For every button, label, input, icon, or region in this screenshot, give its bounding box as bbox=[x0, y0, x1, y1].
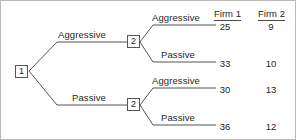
branch-label-n2b-passive: Passive bbox=[161, 113, 195, 123]
edge-n2b-aggressive bbox=[140, 88, 216, 105]
decision-node-2-lower: 2 bbox=[127, 98, 140, 111]
edge-root-aggressive bbox=[29, 42, 127, 71]
tree-edges bbox=[1, 1, 296, 140]
branch-label-root-passive: Passive bbox=[72, 93, 106, 103]
payoff-firm1-row1: 25 bbox=[212, 22, 238, 32]
payoff-firm2-row3: 13 bbox=[258, 85, 284, 95]
payoff-firm1-row2: 33 bbox=[212, 59, 238, 69]
column-header-firm-1: Firm 1 bbox=[214, 9, 241, 21]
decision-node-1: 1 bbox=[15, 65, 28, 78]
payoff-firm2-row2: 10 bbox=[258, 59, 284, 69]
payoff-firm1-row3: 30 bbox=[212, 85, 238, 95]
branch-label-root-aggressive: Aggressive bbox=[58, 30, 106, 40]
payoff-firm2-row4: 12 bbox=[258, 122, 284, 132]
branch-label-n2a-aggressive: Aggressive bbox=[152, 13, 200, 23]
edge-n2a-aggressive bbox=[140, 25, 216, 42]
payoff-firm2-row1: 9 bbox=[258, 22, 284, 32]
decision-node-2-upper: 2 bbox=[127, 35, 140, 48]
payoff-firm1-row4: 36 bbox=[212, 122, 238, 132]
game-tree-diagram: 1 2 2 Aggressive Passive Aggressive Pass… bbox=[0, 0, 296, 140]
branch-label-n2b-aggressive: Aggressive bbox=[152, 76, 200, 86]
branch-label-n2a-passive: Passive bbox=[161, 50, 195, 60]
column-header-firm-2: Firm 2 bbox=[258, 9, 285, 21]
